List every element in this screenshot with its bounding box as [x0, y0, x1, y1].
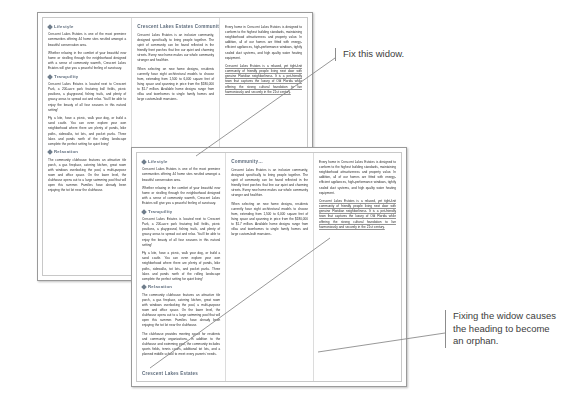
- paragraph: The community clubhouse features an attr…: [142, 293, 220, 329]
- column-heading: Community…: [231, 160, 308, 165]
- page-mockup-after: Lifestyle Crescent Lakes Estates is one …: [131, 147, 407, 387]
- heading-label: Tranquility: [148, 210, 172, 214]
- column-right-after: Every home in Crescent Lakes Estates is …: [313, 153, 401, 381]
- footer-heading: Crescent Lakes Estates: [142, 372, 198, 377]
- diamond-bullet-icon: [141, 285, 147, 291]
- page-columns-after: Lifestyle Crescent Lakes Estates is one …: [136, 152, 402, 382]
- paragraph: Whether relaxing in the comfort of your …: [142, 186, 220, 206]
- diamond-bullet-icon: [47, 74, 53, 80]
- heading-tranquility: Tranquility: [48, 75, 126, 79]
- diamond-bullet-icon: [141, 159, 147, 165]
- paragraph: Crescent Lakes Estates is one of the mos…: [142, 167, 220, 182]
- callout-fix-widow: Fix this widow.: [335, 48, 493, 61]
- paragraph: When selecting on new home designs, resi…: [231, 202, 308, 238]
- paragraph: Fly a kite, have a picnic, walk your dog…: [142, 251, 220, 282]
- heading-relaxation: Relaxation: [48, 150, 126, 154]
- heading-tranquility: Tranquility: [142, 210, 220, 214]
- heading-label: Relaxation: [148, 285, 172, 289]
- heading-lifestyle: Lifestyle: [48, 25, 126, 29]
- column-left-before: Lifestyle Crescent Lakes Estates is one …: [43, 18, 131, 275]
- paragraph: The clubhouse provides meeting space for…: [142, 332, 220, 358]
- paragraph: Every home in Crescent Lakes Estates is …: [225, 25, 302, 61]
- heading-label: Lifestyle: [54, 25, 74, 29]
- column-heading: Crescent Lakes Estates Community…: [137, 25, 214, 30]
- paragraph: Crescent Lakes Estates is one of the mos…: [48, 32, 126, 47]
- paragraph: Whether relaxing in the comfort of your …: [48, 51, 126, 71]
- diamond-bullet-icon: [141, 209, 147, 215]
- paragraph-widow: Crescent Lakes Estates is a relaxed, yet…: [225, 64, 302, 95]
- diamond-bullet-icon: [47, 24, 53, 30]
- heading-label: Tranquility: [54, 75, 78, 79]
- paragraph-orphan: Crescent Lakes Estates is a relaxed, yet…: [319, 199, 396, 230]
- paragraph: Crescent Lakes Estates is located next t…: [48, 82, 126, 113]
- diamond-bullet-icon: [47, 150, 53, 156]
- paragraph: Crescent Lakes Estates is an inclusive c…: [231, 168, 308, 199]
- paragraph: Crescent Lakes Estates is an inclusive c…: [137, 33, 214, 64]
- heading-label: Relaxation: [54, 150, 78, 154]
- column-left-after: Lifestyle Crescent Lakes Estates is one …: [137, 153, 225, 381]
- callout-orphan-heading: Fixing the widow causes the heading to b…: [445, 310, 561, 348]
- paragraph: Fly a kite, have a picnic, walk your dog…: [48, 116, 126, 147]
- column-middle-after: Community… Crescent Lakes Estates is an …: [225, 153, 313, 381]
- paragraph: Every home in Crescent Lakes Estates is …: [319, 160, 396, 196]
- heading-lifestyle: Lifestyle: [142, 160, 220, 164]
- paragraph: The community clubhouse features an attr…: [48, 158, 126, 194]
- paragraph: Crescent Lakes Estates is located next t…: [142, 217, 220, 248]
- paragraph: When selecting on new home designs, resi…: [137, 67, 214, 103]
- heading-relaxation: Relaxation: [142, 285, 220, 289]
- heading-label: Lifestyle: [148, 160, 168, 164]
